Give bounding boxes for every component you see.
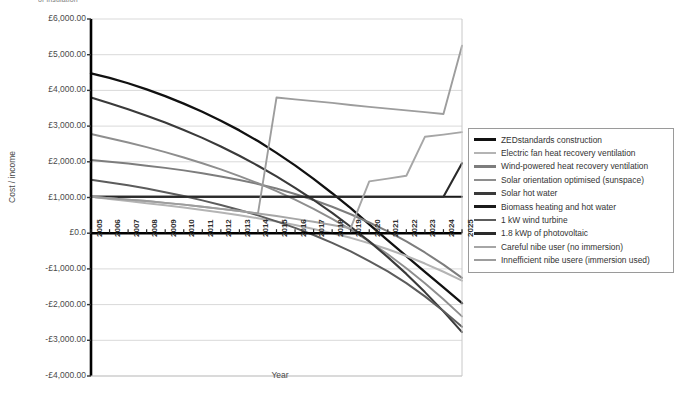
legend-item-0[interactable]: ZEDstandards construction — [474, 133, 668, 146]
x-tick-label: 2011 — [206, 220, 215, 237]
y-tick-label: £2,000.00 — [10, 156, 86, 166]
legend-item-4[interactable]: Solar hot water — [474, 187, 668, 200]
legend-color-swatch — [474, 138, 496, 141]
legend-color-swatch — [474, 205, 496, 208]
x-tick-label: 2013 — [243, 219, 252, 237]
legend-label: Solar orientation optimised (sunspace) — [501, 175, 644, 185]
legend-color-swatch — [474, 152, 496, 155]
y-tick-label: -£1,000.00 — [10, 263, 86, 273]
legend-label: Electric fan heat recovery ventilation — [501, 148, 636, 158]
legend-label: Innefficient nibe usere (immersion used) — [501, 255, 650, 265]
chart-legend: ZEDstandards constructionElectric fan he… — [468, 128, 674, 273]
y-tick-label: -£2,000.00 — [10, 299, 86, 309]
legend-color-swatch — [474, 165, 496, 168]
legend-label: Solar hot water — [501, 188, 557, 198]
legend-item-6[interactable]: 1 kW wind turbine — [474, 213, 668, 226]
y-tick-label: £5,000.00 — [10, 49, 86, 59]
legend-label: ZEDstandards construction — [501, 135, 602, 145]
x-tick-label: 2014 — [261, 219, 270, 237]
legend-label: Biomass heating and hot water — [501, 202, 616, 212]
x-axis-title: Year — [230, 370, 330, 380]
y-axis-title: Cost / income — [7, 142, 17, 212]
x-tick-label: 2009 — [169, 219, 178, 237]
legend-item-3[interactable]: Solar orientation optimised (sunspace) — [474, 173, 668, 186]
y-tick-label: £3,000.00 — [10, 120, 86, 130]
legend-color-swatch — [474, 259, 496, 262]
y-tick-label: £4,000.00 — [10, 84, 86, 94]
legend-color-swatch — [474, 192, 496, 195]
x-tick-label: 2006 — [113, 219, 122, 237]
legend-label: Wind-powered heat recovery ventilation — [501, 161, 648, 171]
legend-color-swatch — [474, 246, 496, 249]
legend-label: 1 kW wind turbine — [501, 215, 568, 225]
y-tick-label: £6,000.00 — [10, 13, 86, 23]
x-tick-label: 2005 — [95, 219, 104, 237]
x-tick-label: 2016 — [299, 219, 308, 237]
x-tick-label: 2020 — [373, 219, 382, 237]
x-tick-label: 2008 — [150, 219, 159, 237]
legend-item-9[interactable]: Innefficient nibe usere (immersion used) — [474, 254, 668, 267]
x-tick-label: 2024 — [447, 219, 456, 237]
x-tick-label: 2017 — [317, 219, 326, 237]
x-tick-label: 2022 — [410, 219, 419, 237]
legend-item-7[interactable]: 1.8 kWp of photovoltaic — [474, 227, 668, 240]
x-tick-label: 2021 — [391, 219, 400, 237]
legend-item-2[interactable]: Wind-powered heat recovery ventilation — [474, 160, 668, 173]
legend-label: Careful nibe user (no immersion) — [501, 242, 623, 252]
x-tick-label: 2010 — [187, 219, 196, 237]
y-tick-label: £0.0 — [10, 227, 86, 237]
legend-item-5[interactable]: Biomass heating and hot water — [474, 200, 668, 213]
legend-color-swatch — [474, 232, 496, 235]
x-tick-label: 2019 — [354, 219, 363, 237]
chart-page: of insulation Cost / income Year ZEDstan… — [0, 0, 695, 404]
y-tick-label: -£3,000.00 — [10, 334, 86, 344]
legend-item-8[interactable]: Careful nibe user (no immersion) — [474, 240, 668, 253]
legend-label: 1.8 kWp of photovoltaic — [501, 228, 588, 238]
x-tick-label: 2012 — [224, 219, 233, 237]
x-tick-label: 2015 — [280, 219, 289, 237]
x-tick-label: 2025 — [466, 219, 475, 237]
legend-item-1[interactable]: Electric fan heat recovery ventilation — [474, 146, 668, 159]
y-tick-label: -£4,000.00 — [10, 370, 86, 380]
y-tick-label: £1,000.00 — [10, 192, 86, 202]
x-tick-label: 2007 — [132, 219, 141, 237]
legend-color-swatch — [474, 179, 496, 182]
x-tick-label: 2023 — [428, 219, 437, 237]
x-tick-label: 2018 — [336, 219, 345, 237]
legend-color-swatch — [474, 219, 496, 222]
